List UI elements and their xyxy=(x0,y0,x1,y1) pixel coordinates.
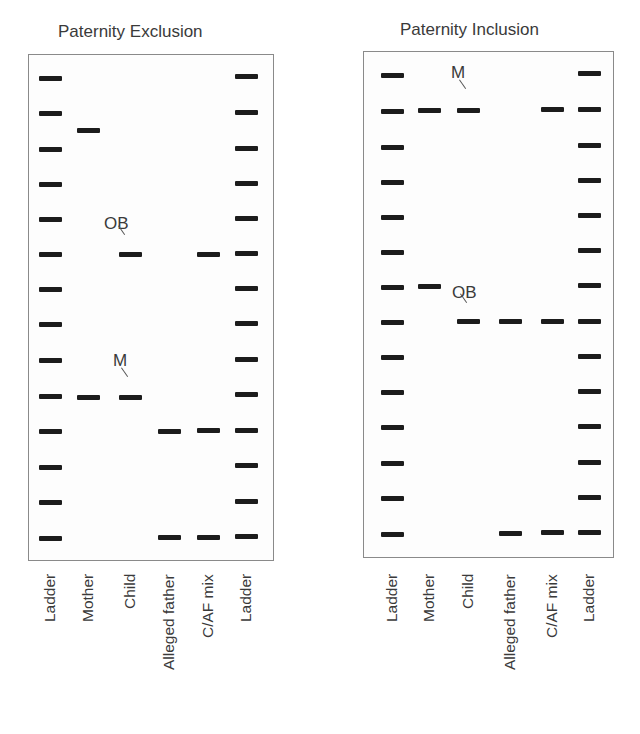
band-ladder xyxy=(578,107,601,112)
band-ladder xyxy=(578,248,601,253)
band-ladder xyxy=(39,252,62,257)
band-ladder xyxy=(578,530,601,535)
band-ladder xyxy=(39,287,62,292)
lane-label-mother: Mother xyxy=(420,574,438,622)
band-ladder xyxy=(39,465,62,470)
band-ladder xyxy=(578,213,601,218)
band-ladder xyxy=(381,461,404,466)
band-child xyxy=(457,319,480,324)
band-ladder xyxy=(235,286,258,291)
band-ladder xyxy=(235,216,258,221)
band-ladder xyxy=(39,217,62,222)
band-ladder xyxy=(39,536,62,541)
lane-label-ladder: Ladder xyxy=(383,574,401,622)
band-ladder xyxy=(235,74,258,79)
band-ladder xyxy=(381,355,404,360)
band-ladder xyxy=(381,285,404,290)
lane-label-alleged-father: Alleged father xyxy=(501,574,519,670)
allele-marker-m: M xyxy=(451,64,465,81)
band-ladder xyxy=(235,181,258,186)
band-ladder xyxy=(381,496,404,501)
panel-title-inclusion: Paternity Inclusion xyxy=(400,20,539,40)
lane-label-ladder: Ladder xyxy=(41,574,59,622)
band-child xyxy=(119,252,142,257)
band-ladder xyxy=(578,354,601,359)
gel-panel-inclusion xyxy=(363,51,614,558)
band-ladder xyxy=(235,463,258,468)
band-ladder xyxy=(39,429,62,434)
band-ladder xyxy=(578,319,601,324)
band-ladder xyxy=(381,390,404,395)
band-ladder xyxy=(578,143,601,148)
band-ladder xyxy=(578,71,601,76)
lane-label-child: Child xyxy=(459,574,477,609)
band-ladder xyxy=(381,320,404,325)
band-ladder xyxy=(578,460,601,465)
band-mother xyxy=(77,395,100,400)
band-child xyxy=(119,395,142,400)
band-ladder xyxy=(39,76,62,81)
gel-panel-exclusion xyxy=(28,54,274,561)
band-alleged-father xyxy=(158,535,181,540)
band-ladder xyxy=(578,178,601,183)
band-ladder xyxy=(39,322,62,327)
band-ladder xyxy=(578,424,601,429)
band-ladder xyxy=(39,182,62,187)
band-mother xyxy=(418,108,441,113)
band-ladder xyxy=(381,532,404,537)
band-ladder xyxy=(39,394,62,399)
band-mother xyxy=(77,128,100,133)
band-ladder xyxy=(381,215,404,220)
lane-label-ladder: Ladder xyxy=(580,574,598,622)
band-ladder xyxy=(235,251,258,256)
band-ladder xyxy=(235,534,258,539)
band-c-af-mix xyxy=(541,530,564,535)
lane-label-c-af-mix: C/AF mix xyxy=(543,574,561,638)
band-ladder xyxy=(381,73,404,78)
band-child xyxy=(457,108,480,113)
lane-label-c-af-mix: C/AF mix xyxy=(199,574,217,638)
lane-label-ladder: Ladder xyxy=(237,574,255,622)
allele-marker-m: M xyxy=(113,352,127,369)
panel-title-exclusion: Paternity Exclusion xyxy=(58,22,203,42)
band-ladder xyxy=(39,500,62,505)
band-c-af-mix xyxy=(541,319,564,324)
lane-label-mother: Mother xyxy=(79,574,97,622)
band-ladder xyxy=(235,392,258,397)
band-ladder xyxy=(39,147,62,152)
band-c-af-mix xyxy=(541,107,564,112)
lane-label-alleged-father: Alleged father xyxy=(160,574,178,670)
band-c-af-mix xyxy=(197,535,220,540)
band-ladder xyxy=(381,250,404,255)
band-ladder xyxy=(578,283,601,288)
band-ladder xyxy=(578,389,601,394)
band-alleged-father xyxy=(158,429,181,434)
band-ladder xyxy=(235,321,258,326)
band-ladder xyxy=(381,145,404,150)
band-c-af-mix xyxy=(197,252,220,257)
band-ladder xyxy=(381,425,404,430)
band-ladder xyxy=(235,357,258,362)
band-ladder xyxy=(39,111,62,116)
lane-label-child: Child xyxy=(121,574,139,609)
band-ladder xyxy=(235,146,258,151)
band-alleged-father xyxy=(499,531,522,536)
band-ladder xyxy=(39,358,62,363)
allele-marker-ob: OB xyxy=(104,215,129,232)
band-ladder xyxy=(235,110,258,115)
band-ladder xyxy=(578,495,601,500)
band-ladder xyxy=(381,180,404,185)
band-alleged-father xyxy=(499,319,522,324)
band-ladder xyxy=(235,428,258,433)
band-ladder xyxy=(235,499,258,504)
band-mother xyxy=(418,284,441,289)
band-ladder xyxy=(381,109,404,114)
band-c-af-mix xyxy=(197,428,220,433)
